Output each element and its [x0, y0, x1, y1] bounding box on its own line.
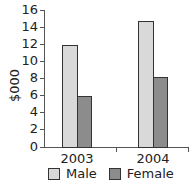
- y-tick-label: 16: [12, 3, 38, 17]
- y-tick: [40, 95, 45, 96]
- x-tick-label: 2003: [52, 151, 102, 166]
- legend-swatch-male: [48, 168, 60, 180]
- legend: Male Female: [48, 166, 186, 181]
- legend-label: Male: [66, 166, 97, 181]
- legend-swatch-female: [109, 168, 121, 180]
- y-tick: [40, 78, 45, 79]
- y-tick-label: 10: [12, 54, 38, 68]
- y-tick-label: 4: [12, 105, 38, 119]
- y-tick: [40, 27, 45, 28]
- y-tick: [40, 129, 45, 130]
- y-tick-label: 6: [12, 88, 38, 102]
- y-tick: [40, 112, 45, 113]
- y-tick-label: 8: [12, 71, 38, 85]
- bar-female-2003: [77, 96, 92, 148]
- bar-male-2003: [62, 45, 78, 148]
- bar-female-2004: [153, 77, 168, 148]
- x-tick: [188, 147, 189, 152]
- bar-male-2004: [138, 21, 154, 148]
- bar-chart: $000 16 14 12 10 8 6 4 2 0 2003 2004 Mal…: [0, 0, 196, 184]
- y-tick: [40, 10, 45, 11]
- y-tick-label: 14: [12, 20, 38, 34]
- x-tick-label: 2004: [128, 151, 178, 166]
- y-tick-label: 0: [12, 140, 38, 154]
- legend-label: Female: [127, 166, 174, 181]
- legend-item-male: Male: [48, 166, 97, 181]
- y-tick-label: 12: [12, 37, 38, 51]
- x-tick: [116, 147, 117, 152]
- y-tick: [40, 44, 45, 45]
- y-tick: [40, 61, 45, 62]
- legend-item-female: Female: [109, 166, 174, 181]
- y-tick-label: 2: [12, 122, 38, 136]
